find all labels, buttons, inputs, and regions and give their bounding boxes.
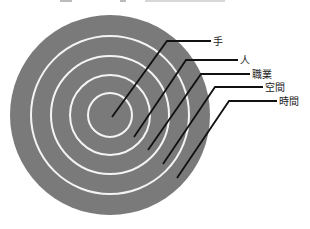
cropped-title-remnant xyxy=(60,0,225,2)
layer-label-time: 時間 xyxy=(279,96,299,107)
layer-label-space: 空間 xyxy=(265,81,285,93)
layer-label-occupation: 職業 xyxy=(252,68,272,80)
layer-label-hand: 手 xyxy=(213,35,223,47)
outer-disk xyxy=(10,15,210,215)
layer-label-person: 人 xyxy=(240,55,250,66)
concentric-circles-diagram: 手 人 職業 空間 時間 xyxy=(0,0,310,229)
label-group: 手 人 職業 空間 時間 xyxy=(213,35,299,107)
